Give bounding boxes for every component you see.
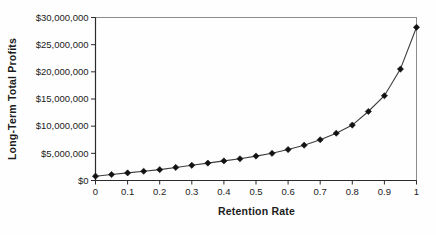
data-point-marker bbox=[413, 24, 419, 30]
x-axis-title: Retention Rate bbox=[96, 205, 417, 217]
y-tick-label: $30,000,000 bbox=[36, 12, 89, 23]
data-point-marker bbox=[92, 173, 98, 179]
profit-retention-chart: $0$5,000,000$10,000,000$15,000,000$20,00… bbox=[0, 0, 436, 235]
y-tick-label: $20,000,000 bbox=[36, 66, 89, 77]
y-tick-label: $0 bbox=[78, 175, 89, 186]
data-point-marker bbox=[108, 171, 114, 177]
chart-figure: $0$5,000,000$10,000,000$15,000,000$20,00… bbox=[0, 0, 436, 235]
x-tick-label: 1 bbox=[414, 186, 419, 197]
x-tick-label: 0.7 bbox=[314, 186, 327, 197]
data-point-marker bbox=[333, 130, 339, 136]
data-point-marker bbox=[157, 167, 163, 173]
y-tick-label: $25,000,000 bbox=[36, 39, 89, 50]
x-tick-label: 0.1 bbox=[121, 186, 134, 197]
data-point-marker bbox=[397, 66, 403, 72]
data-point-marker bbox=[173, 164, 179, 170]
data-point-marker bbox=[141, 168, 147, 174]
x-tick-label: 0.9 bbox=[378, 186, 391, 197]
x-tick-label: 0.5 bbox=[249, 186, 262, 197]
y-axis-title: Long-Term Total Profits bbox=[6, 34, 18, 164]
data-point-marker bbox=[221, 158, 227, 164]
y-tick-label: $10,000,000 bbox=[36, 120, 89, 131]
data-point-marker bbox=[237, 156, 243, 162]
x-tick-label: 0.6 bbox=[281, 186, 294, 197]
x-tick-label: 0 bbox=[93, 186, 98, 197]
y-tick-label: $5,000,000 bbox=[41, 148, 89, 159]
x-tick-label: 0.3 bbox=[185, 186, 198, 197]
x-tick-label: 0.4 bbox=[217, 186, 230, 197]
data-point-marker bbox=[125, 170, 131, 176]
data-point-marker bbox=[253, 153, 259, 159]
data-point-marker bbox=[205, 160, 211, 166]
data-point-marker bbox=[317, 137, 323, 143]
data-point-marker bbox=[269, 150, 275, 156]
data-point-marker bbox=[189, 162, 195, 168]
y-tick-label: $15,000,000 bbox=[36, 93, 89, 104]
data-point-marker bbox=[285, 146, 291, 152]
x-tick-label: 0.2 bbox=[153, 186, 166, 197]
data-point-marker bbox=[301, 142, 307, 148]
x-tick-label: 0.8 bbox=[346, 186, 359, 197]
